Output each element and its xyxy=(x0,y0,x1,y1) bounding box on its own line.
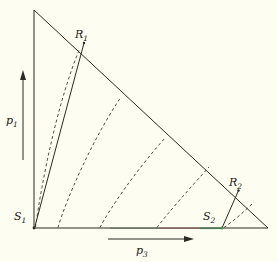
figure-root: p1 p3 S1 S2 R1 R2 xyxy=(0,0,278,262)
p1-symbol: p xyxy=(6,114,13,127)
p1-subscript: 1 xyxy=(13,120,18,129)
diagram-background xyxy=(0,0,278,262)
p3-symbol: p xyxy=(136,244,143,257)
r2-subscript: 2 xyxy=(236,182,242,191)
marker-s1 xyxy=(33,227,36,230)
s1-subscript: 1 xyxy=(22,216,27,225)
marker-s2 xyxy=(221,227,224,230)
r2-symbol: R xyxy=(228,176,237,189)
s2-subscript: 2 xyxy=(210,216,216,225)
r1-symbol: R xyxy=(74,28,83,41)
r1-subscript: 1 xyxy=(83,34,88,43)
triangle-diagram: p1 p3 S1 S2 R1 R2 xyxy=(0,0,278,262)
p3-subscript: 3 xyxy=(143,250,148,259)
